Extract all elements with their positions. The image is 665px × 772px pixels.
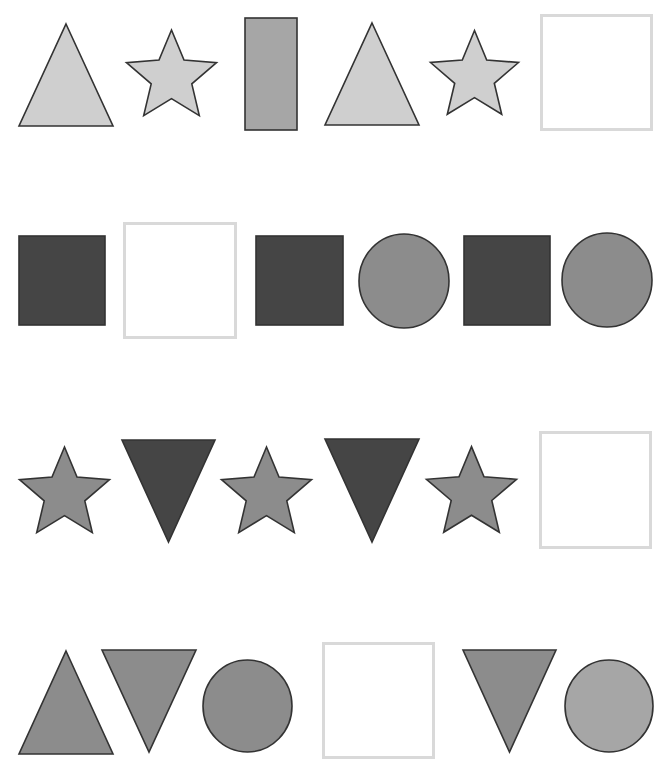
circle-shape — [203, 660, 292, 752]
triangle-shape — [19, 651, 113, 754]
circle-shape — [359, 234, 449, 328]
rect-shape — [464, 236, 550, 325]
inv-triangle-shape — [463, 650, 556, 752]
star-shape — [430, 27, 519, 121]
circle-shape — [565, 660, 653, 752]
rect-shape — [245, 18, 297, 130]
circle-shape — [562, 233, 652, 327]
star-shape — [426, 443, 517, 539]
star-shape — [221, 444, 312, 539]
answer-blank-box[interactable] — [539, 431, 652, 549]
inv-triangle-shape — [325, 439, 419, 542]
rect-shape — [256, 236, 343, 325]
triangle-shape — [325, 23, 419, 125]
answer-blank-box[interactable] — [123, 222, 237, 339]
rect-shape — [19, 236, 105, 325]
pattern-puzzle-worksheet — [0, 0, 665, 772]
answer-blank-box[interactable] — [540, 14, 653, 131]
answer-blank-box[interactable] — [322, 642, 435, 759]
inv-triangle-shape — [102, 650, 196, 752]
triangle-shape — [19, 24, 113, 126]
inv-triangle-shape — [122, 440, 215, 542]
star-shape — [126, 27, 217, 122]
star-shape — [19, 444, 110, 539]
